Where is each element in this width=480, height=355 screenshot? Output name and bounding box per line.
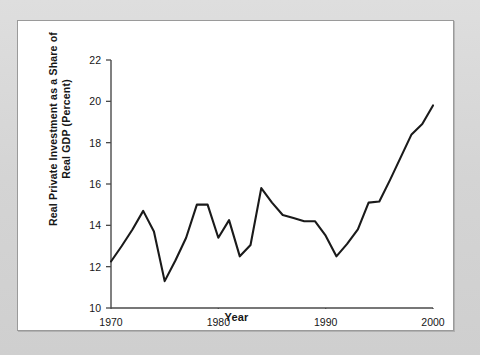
y-axis-tick-label: 22: [75, 54, 101, 66]
chart-panel: Real Private Investment as a Share of Re…: [17, 20, 454, 331]
figure-root: Real Private Investment as a Share of Re…: [0, 0, 480, 355]
y-axis-title: Real Private Investment as a Share of Re…: [47, 9, 73, 249]
y-axis-ticks: [106, 60, 111, 308]
y-axis-tick-label: 16: [75, 178, 101, 190]
y-axis-tick-label: 18: [75, 137, 101, 149]
y-axis-tick-label: 20: [75, 95, 101, 107]
data-series-line: [111, 105, 433, 281]
plot-area: 10121416182022 1970198019902000: [93, 39, 438, 309]
y-axis-tick-label: 12: [75, 261, 101, 273]
line-chart-svg: [93, 39, 438, 309]
x-axis-title: Year: [18, 311, 455, 323]
y-axis-tick-label: 14: [75, 219, 101, 231]
